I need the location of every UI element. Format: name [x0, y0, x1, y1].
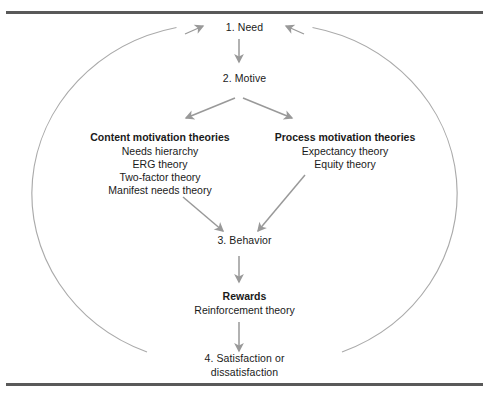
group-process-title: Process motivation theories — [240, 131, 450, 144]
group-process-item-0: Expectancy theory — [240, 145, 450, 158]
node-satisfaction-line1: 4. Satisfaction or — [204, 352, 284, 364]
group-rewards-title: Rewards — [0, 290, 489, 303]
node-satisfaction-line2: dissatisfaction — [211, 366, 278, 378]
group-process-item-1: Equity theory — [240, 158, 450, 171]
node-behavior: 3. Behavior — [0, 234, 489, 247]
group-content-item-3: Manifest needs theory — [45, 184, 275, 197]
group-content-item-2: Two-factor theory — [45, 171, 275, 184]
group-rewards: Rewards Reinforcement theory — [0, 290, 489, 317]
group-process-motivation-theories: Process motivation theories Expectancy t… — [240, 131, 450, 171]
node-satisfaction: 4. Satisfaction or dissatisfaction — [0, 352, 489, 379]
arrow-motive-to-content — [186, 98, 235, 118]
figure-container: 1. Need 2. Motive Content motivation the… — [0, 0, 489, 395]
arrow-content-to-behavior — [183, 197, 223, 231]
node-motive: 2. Motive — [0, 72, 489, 85]
arrow-motive-to-process — [243, 98, 292, 118]
node-need: 1. Need — [0, 21, 489, 34]
group-rewards-item-0: Reinforcement theory — [0, 304, 489, 317]
